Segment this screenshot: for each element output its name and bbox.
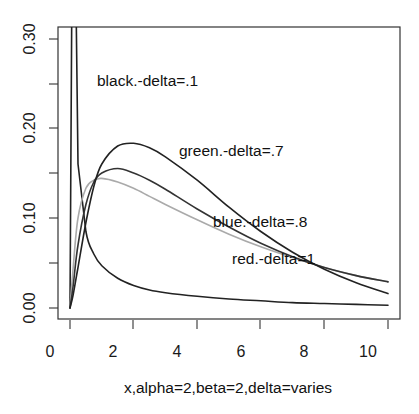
x-tick-label: 10 xyxy=(359,343,377,360)
x-tick-label: 2 xyxy=(109,343,118,360)
curve-red-delta-1 xyxy=(70,178,388,308)
annotation-red: red.-delta=1 xyxy=(232,250,315,267)
y-tick-label: 0.10 xyxy=(21,202,38,233)
density-chart: 0.00 0.10 0.20 0.30 0 2 4 6 8 10 x,alpha… xyxy=(0,0,419,414)
y-tick-label: 0.20 xyxy=(21,112,38,143)
curve-blue-delta-0.8 xyxy=(70,169,388,309)
y-tick-label: 0.30 xyxy=(21,23,38,54)
x-tick-label: 6 xyxy=(237,343,246,360)
x-tick-labels: 0 2 4 6 8 10 xyxy=(46,343,377,360)
annotation-black: black.-delta=.1 xyxy=(97,72,198,89)
y-axis xyxy=(49,39,58,308)
y-tick-labels: 0.00 0.10 0.20 0.30 xyxy=(21,23,38,323)
x-axis-label: x,alpha=2,beta=2,delta=varies xyxy=(124,379,332,396)
annotation-green: green.-delta=.7 xyxy=(179,142,284,159)
x-tick-label: 8 xyxy=(300,343,309,360)
y-tick-label: 0.00 xyxy=(21,292,38,323)
plot-frame xyxy=(58,27,400,319)
annotation-blue: blue.-delta=.8 xyxy=(213,213,307,230)
x-axis xyxy=(70,320,388,329)
x-tick-label: 0 xyxy=(46,343,55,360)
x-tick-label: 4 xyxy=(173,343,182,360)
